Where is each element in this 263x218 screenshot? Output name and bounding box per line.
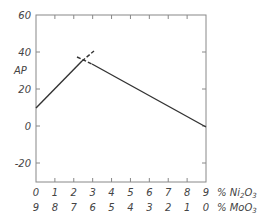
x-tick-label-ni2o3: 5 (127, 187, 133, 198)
x-tick-label-moo3: 1 (184, 202, 190, 213)
x-tick-label-ni2o3: 6 (146, 187, 152, 198)
x-tick-label-moo3: 3 (146, 202, 152, 213)
y-axis-title: AP (13, 65, 28, 76)
x-tick-label-moo3: 5 (108, 202, 114, 213)
x-tick-label-ni2o3: 9 (203, 187, 209, 198)
y-tick-minus20: -20 (15, 158, 31, 169)
rising-line-solid (36, 61, 82, 108)
x-tick-label-ni2o3: 7 (165, 187, 172, 198)
x-tick-labels-moo3: 9876543210 (33, 202, 209, 213)
x-tick-label-moo3: 0 (203, 202, 209, 213)
x-tick-label-moo3: 9 (33, 202, 39, 213)
x-tick-label-ni2o3: 8 (184, 187, 190, 198)
y-tick-0: 0 (25, 121, 31, 132)
falling-line-solid (92, 64, 206, 127)
x-axis-title-ni2o3: % Ni2O3 (217, 187, 257, 200)
x-tick-label-moo3: 8 (52, 202, 58, 213)
x-tick-label-moo3: 7 (71, 202, 78, 213)
x-tick-label-ni2o3: 1 (52, 187, 58, 198)
y-tick-20: 20 (18, 84, 31, 95)
y-ticks-right (202, 52, 206, 163)
x-tick-label-ni2o3: 0 (33, 187, 39, 198)
x-axis-title-moo3: % MoO3 (217, 202, 257, 215)
x-tick-label-ni2o3: 4 (108, 187, 114, 198)
y-tick-60: 60 (18, 10, 31, 21)
x-ticks (55, 15, 187, 182)
x-tick-label-moo3: 4 (127, 202, 133, 213)
x-tick-label-moo3: 2 (165, 202, 171, 213)
x-tick-label-ni2o3: 3 (89, 187, 95, 198)
data-lines (36, 51, 206, 127)
y-tick-40: 40 (18, 47, 31, 58)
x-tick-label-moo3: 6 (89, 202, 95, 213)
plot-frame (36, 15, 206, 182)
x-tick-labels-ni2o3: 0123456789 (33, 187, 209, 198)
chart: 60 40 20 0 -20 AP 0123456789 9876543210 … (0, 0, 263, 218)
x-tick-label-ni2o3: 2 (71, 187, 77, 198)
